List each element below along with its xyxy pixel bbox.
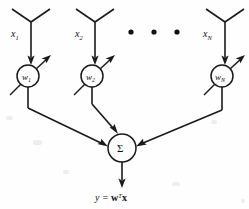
adapt-input-stub-1 [10, 84, 21, 95]
fork-arm-right-n [225, 9, 244, 22]
input-label-2: x2 [74, 28, 83, 41]
adapt-input-stub-n [204, 84, 215, 95]
fork-arm-left-1 [12, 9, 31, 22]
summation-symbol: Σ [117, 142, 123, 154]
input-label-1: x1 [10, 28, 19, 41]
input-branch-2: x2 [74, 9, 114, 65]
routing-wn-to-sum [136, 87, 222, 147]
routing-w2-to-sum [92, 87, 118, 134]
adapt-input-stub-2 [74, 84, 85, 95]
figure-canvas: x1 x2 xN [0, 0, 249, 209]
fork-arm-left-n [206, 9, 225, 22]
output-arrow-group [118, 162, 125, 188]
input-branch-1: x1 [10, 9, 50, 65]
ellipsis-dot [128, 29, 133, 34]
ellipsis-group [128, 29, 179, 34]
output-formula: y=wTx [94, 192, 127, 204]
diagonal-line-n [143, 110, 222, 143]
diagonal-line-1 [28, 108, 101, 143]
fork-arm-left-2 [76, 9, 95, 22]
fork-arm-right-1 [31, 9, 50, 22]
ellipsis-dot [151, 29, 156, 34]
fork-arm-right-2 [95, 9, 114, 22]
neural-unit-diagram: x1 x2 xN [0, 0, 249, 209]
ellipsis-dot [174, 29, 179, 34]
input-branch-n: xN [202, 9, 244, 65]
summation-node: Σ [108, 134, 136, 162]
input-label-n: xN [202, 28, 212, 41]
diagonal-line-2 [92, 104, 113, 128]
routing-w1-to-sum [28, 87, 108, 147]
